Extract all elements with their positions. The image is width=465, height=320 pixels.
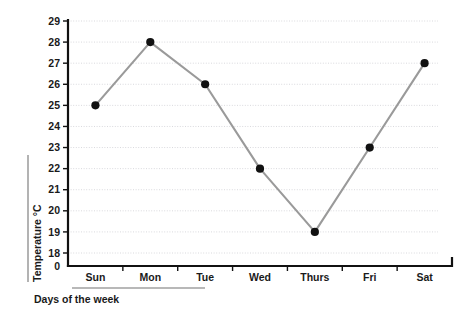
data-point bbox=[420, 59, 428, 67]
x-tick-label: Fri bbox=[363, 271, 377, 283]
data-point bbox=[311, 228, 319, 236]
y-tick-label: 24 bbox=[48, 120, 60, 132]
y-tick-label: 20 bbox=[48, 204, 60, 216]
x-axis-line bbox=[68, 258, 452, 266]
temperature-data-points bbox=[91, 38, 428, 236]
y-tick-label: 26 bbox=[48, 78, 60, 90]
chart-canvas: 2928272625242322212019180 SunMonTueWedTh… bbox=[0, 0, 465, 320]
y-axis-title: Temperature °C bbox=[31, 204, 43, 282]
y-tick-label: 29 bbox=[48, 15, 60, 27]
y-tick-label: 23 bbox=[48, 141, 60, 153]
y-tick-label: 21 bbox=[48, 183, 60, 195]
temperature-line-chart: 2928272625242322212019180 SunMonTueWedTh… bbox=[0, 0, 465, 320]
y-tick-label: 25 bbox=[48, 99, 60, 111]
y-tick-label: 18 bbox=[48, 247, 60, 259]
x-tick-label: Mon bbox=[139, 271, 161, 283]
y-tick-label: 27 bbox=[48, 57, 60, 69]
data-point bbox=[91, 101, 99, 109]
y-tick-label: 22 bbox=[48, 162, 60, 174]
gridlines bbox=[68, 21, 438, 253]
y-tick-label: 0 bbox=[54, 260, 60, 272]
data-point bbox=[201, 80, 209, 88]
temperature-series-line bbox=[95, 42, 424, 232]
x-tick-label: Wed bbox=[249, 271, 271, 283]
x-axis-tick-labels: SunMonTueWedThursFriSat bbox=[86, 271, 434, 283]
x-tick-label: Sun bbox=[86, 271, 106, 283]
data-point bbox=[256, 165, 264, 173]
x-tick-label: Thurs bbox=[300, 271, 329, 283]
y-tick-label: 28 bbox=[48, 36, 60, 48]
data-point bbox=[366, 143, 374, 151]
data-point bbox=[146, 38, 154, 46]
x-tick-label: Sat bbox=[416, 271, 433, 283]
x-axis-title: Days of the week bbox=[34, 293, 119, 305]
y-axis-tick-labels: 2928272625242322212019180 bbox=[48, 15, 60, 272]
y-tick-label: 19 bbox=[48, 226, 60, 238]
x-tick-label: Tue bbox=[196, 271, 214, 283]
